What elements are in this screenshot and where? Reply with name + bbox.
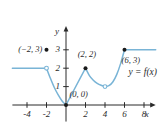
open-point-0 <box>45 66 49 70</box>
x-axis-label: x <box>145 110 149 119</box>
function-graph-figure: -4-22468123xy(−2, 3)(2, 2)(0, 0)(6, 3)y … <box>0 0 168 124</box>
annotation-neg2-3: (−2, 3) <box>18 45 42 54</box>
filled-point-5 <box>123 48 127 52</box>
curve-rising-segment <box>66 68 86 105</box>
y-tick-label-1: 2 <box>56 64 61 73</box>
filled-point-2 <box>64 103 68 107</box>
graph-canvas <box>0 0 168 124</box>
curve-decaying-arc <box>86 68 106 86</box>
filled-point-1 <box>45 48 49 52</box>
annotation-6-3: (6, 3) <box>122 56 140 65</box>
annotation-2-2: (2, 2) <box>78 50 96 59</box>
x-tick-label-1: -2 <box>43 110 51 119</box>
x-axis-arrow <box>150 103 156 108</box>
annotation-0-0: (0, 0) <box>69 90 87 99</box>
x-tick-label-2: 2 <box>83 110 88 119</box>
y-axis-arrow <box>64 26 69 32</box>
y-tick-label-0: 1 <box>56 82 61 91</box>
y-tick-label-2: 3 <box>56 45 61 54</box>
open-point-4 <box>103 85 107 89</box>
x-tick-label-0: -4 <box>23 110 31 119</box>
y-axis-label: y <box>55 27 59 36</box>
x-tick-label-3: 4 <box>103 110 108 119</box>
x-tick-label-4: 6 <box>122 110 127 119</box>
filled-point-3 <box>84 66 88 70</box>
function-label: y = f(x) <box>128 68 157 78</box>
